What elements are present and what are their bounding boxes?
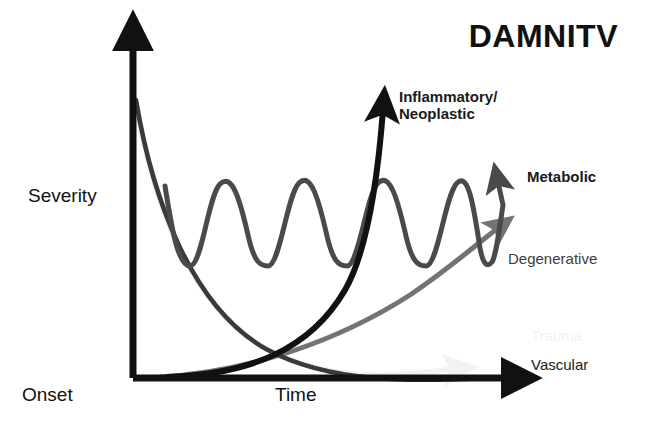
curve-label-trauma: Trauma xyxy=(531,327,582,344)
page-title: DAMNITV xyxy=(469,18,618,55)
origin-label: Onset xyxy=(22,384,73,406)
diagram-canvas: DAMNITV Inflammatory/ Neoplastic Metabol… xyxy=(0,0,652,427)
y-axis-label: Severity xyxy=(28,185,97,207)
curve-metabolic xyxy=(165,180,503,266)
curve-label-vascular: Vascular xyxy=(531,356,588,373)
curve-label-metabolic: Metabolic xyxy=(527,168,596,185)
curve-label-degenerative: Degenerative xyxy=(508,250,597,267)
x-axis-label: Time xyxy=(275,384,317,406)
curve-label-inflammatory: Inflammatory/ Neoplastic xyxy=(399,88,497,123)
